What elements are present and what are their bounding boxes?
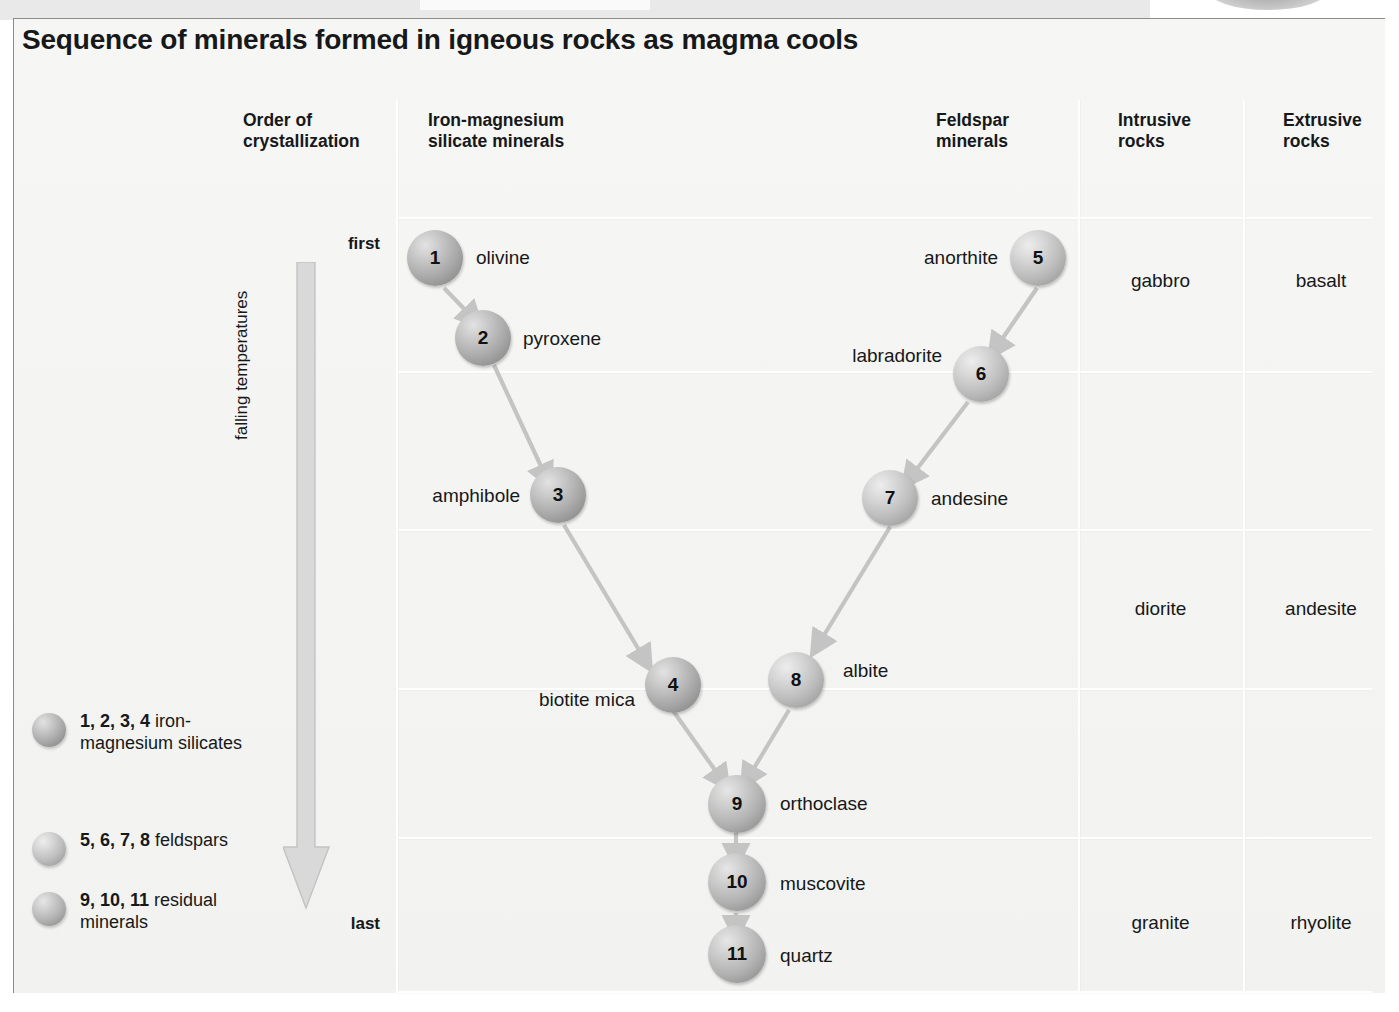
- rock-extrusive-rhyolite: rhyolite: [1243, 912, 1399, 934]
- node-2-label: pyroxene: [523, 328, 601, 350]
- last-label: last: [280, 914, 380, 934]
- node-7-andesine[interactable]: 7: [862, 470, 918, 526]
- grid-hline-3: [396, 529, 1372, 531]
- column-header-feldspar-line1: Feldspar: [936, 110, 1009, 131]
- node-8-albite[interactable]: 8: [768, 652, 824, 708]
- column-header-order-line2: crystallization: [243, 131, 360, 152]
- node-10-muscovite[interactable]: 10: [708, 853, 766, 911]
- node-9-number: 9: [732, 793, 743, 815]
- column-header-feldspar-line2: minerals: [936, 131, 1009, 152]
- node-10-number: 10: [726, 871, 747, 893]
- rock-extrusive-andesite: andesite: [1243, 598, 1399, 620]
- node-5-number: 5: [1033, 247, 1044, 269]
- scan-artifact-top-middle: [420, 0, 650, 10]
- figure-page: Sequence of minerals formed in igneous r…: [0, 0, 1399, 1012]
- legend-swatch-feldspars-icon: [32, 832, 66, 866]
- node-6-labradorite[interactable]: 6: [953, 346, 1009, 402]
- node-11-label: quartz: [780, 945, 833, 967]
- column-header-iron-magnesium: Iron-magnesium silicate minerals: [428, 110, 564, 151]
- node-8-label: albite: [843, 660, 888, 682]
- legend-nums-residual: 9, 10, 11: [80, 890, 149, 910]
- column-header-order-line1: Order of: [243, 110, 360, 131]
- rock-intrusive-granite: granite: [1078, 912, 1243, 934]
- rock-intrusive-diorite: diorite: [1078, 598, 1243, 620]
- legend-label-feldspars: 5, 6, 7, 8 feldspars: [80, 830, 228, 852]
- node-6-number: 6: [976, 363, 987, 385]
- column-header-extrusive-line2: rocks: [1283, 131, 1362, 152]
- node-8-number: 8: [791, 669, 802, 691]
- node-1-label: olivine: [476, 247, 530, 269]
- scan-artifact-blob: [1208, 0, 1328, 10]
- falling-temperatures-label: falling temperatures: [232, 291, 252, 440]
- column-header-iron-magnesium-line1: Iron-magnesium: [428, 110, 564, 131]
- legend-label-iron-magnesium: 1, 2, 3, 4 iron-magnesium silicates: [80, 711, 272, 754]
- node-11-quartz[interactable]: 11: [708, 925, 766, 983]
- legend-swatch-residual-icon: [32, 892, 66, 926]
- legend-swatch-iron-magnesium-icon: [32, 713, 66, 747]
- node-3-amphibole[interactable]: 3: [530, 467, 586, 523]
- column-header-feldspar: Feldspar minerals: [936, 110, 1009, 151]
- node-6-label: labradorite: [752, 345, 942, 367]
- legend-text-feldspars: feldspars: [150, 830, 228, 850]
- node-10-label: muscovite: [780, 873, 866, 895]
- column-header-iron-magnesium-line2: silicate minerals: [428, 131, 564, 152]
- grid-hline-2: [396, 371, 1372, 373]
- node-4-label: biotite mica: [430, 689, 635, 711]
- column-header-order: Order of crystallization: [243, 110, 360, 151]
- node-4-biotite-mica[interactable]: 4: [645, 657, 701, 713]
- first-label: first: [280, 234, 380, 254]
- node-4-number: 4: [668, 674, 679, 696]
- node-3-label: amphibole: [330, 485, 520, 507]
- grid-hline-5: [396, 837, 1372, 839]
- rock-extrusive-basalt: basalt: [1243, 270, 1399, 292]
- node-9-label: orthoclase: [780, 793, 868, 815]
- column-header-extrusive-line1: Extrusive: [1283, 110, 1362, 131]
- page-title: Sequence of minerals formed in igneous r…: [22, 24, 858, 56]
- column-header-intrusive-line1: Intrusive: [1118, 110, 1191, 131]
- node-1-number: 1: [430, 247, 441, 269]
- falling-temperature-arrow: [283, 262, 335, 910]
- column-header-intrusive-line2: rocks: [1118, 131, 1191, 152]
- node-5-anorthite[interactable]: 5: [1010, 230, 1066, 286]
- node-11-number: 11: [727, 943, 747, 965]
- grid-hline-6: [396, 991, 1372, 993]
- node-5-label: anorthite: [820, 247, 998, 269]
- node-2-number: 2: [478, 327, 489, 349]
- grid-hline-1: [396, 217, 1372, 219]
- node-3-number: 3: [553, 484, 564, 506]
- node-7-number: 7: [885, 487, 896, 509]
- legend-nums-iron-magnesium: 1, 2, 3, 4: [80, 711, 150, 731]
- column-header-extrusive: Extrusive rocks: [1283, 110, 1362, 151]
- node-9-orthoclase[interactable]: 9: [708, 775, 766, 833]
- grid-vline-1: [396, 100, 398, 992]
- node-7-label: andesine: [931, 488, 1008, 510]
- legend-nums-feldspars: 5, 6, 7, 8: [80, 830, 150, 850]
- grid-vline-3: [1243, 100, 1245, 992]
- node-2-pyroxene[interactable]: 2: [455, 310, 511, 366]
- node-1-olivine[interactable]: 1: [407, 230, 463, 286]
- grid-vline-2: [1078, 100, 1080, 992]
- legend-label-residual: 9, 10, 11 residual minerals: [80, 890, 262, 933]
- column-header-intrusive: Intrusive rocks: [1118, 110, 1191, 151]
- rock-intrusive-gabbro: gabbro: [1078, 270, 1243, 292]
